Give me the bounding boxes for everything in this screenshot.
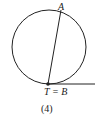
- label-a: A: [57, 1, 65, 12]
- geometry-figure: A T = B (4): [0, 0, 98, 120]
- chord-a-t: [48, 10, 61, 84]
- circle: [12, 10, 86, 84]
- figure-caption: (4): [41, 103, 53, 115]
- label-t-equals-b: T = B: [44, 86, 67, 97]
